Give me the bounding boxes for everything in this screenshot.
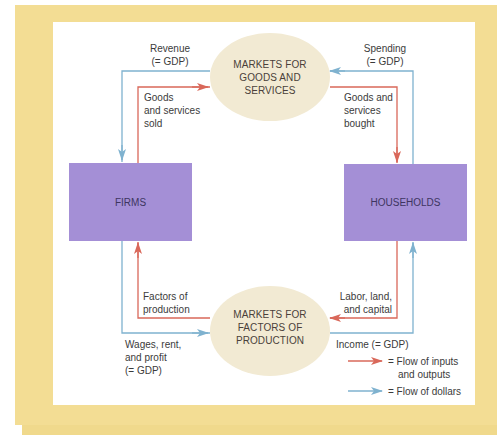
goods-market-line-2: GOODS AND	[210, 71, 330, 84]
wages-flow-line	[122, 241, 210, 333]
factor-market-label: MARKETS FOR FACTORS OF PRODUCTION	[210, 308, 330, 347]
income-text: Income (= GDP)	[336, 339, 409, 350]
legend-dollars-label: = Flow of dollars	[388, 385, 461, 398]
factors-of-production-label: Factors of production	[143, 290, 190, 316]
factors-line-1: Factors of	[143, 290, 190, 303]
factor-market-line-3: PRODUCTION	[210, 334, 330, 347]
goods-bought-line-1: Goods and	[344, 91, 393, 104]
factors-line-2: production	[143, 303, 190, 316]
goods-market-label: MARKETS FOR GOODS AND SERVICES	[210, 58, 330, 97]
labor-line-1: Labor, land,	[330, 290, 392, 303]
goods-sold-line-3: sold	[144, 117, 200, 130]
spending-label: Spending (= GDP)	[355, 42, 415, 68]
goods-sold-label: Goods and services sold	[144, 91, 200, 130]
legend-inputs-line-2: and outputs	[388, 368, 458, 381]
households-box: HOUSEHOLDS	[344, 164, 467, 241]
spending-label-line-1: Spending	[355, 42, 415, 55]
factor-market-line-2: FACTORS OF	[210, 321, 330, 334]
wages-label: Wages, rent, and profit (= GDP)	[125, 338, 181, 377]
firms-label: FIRMS	[115, 197, 146, 208]
labor-land-capital-label: Labor, land, and capital	[330, 290, 392, 316]
income-label: Income (= GDP)	[336, 338, 409, 351]
wages-line-1: Wages, rent,	[125, 338, 181, 351]
goods-bought-label: Goods and services bought	[344, 91, 393, 130]
goods-sold-line-2: and services	[144, 104, 200, 117]
legend-inputs-outputs-label: = Flow of inputs and outputs	[388, 355, 458, 381]
factor-market-line-1: MARKETS FOR	[210, 308, 330, 321]
households-label: HOUSEHOLDS	[370, 197, 440, 208]
revenue-label-line-1: Revenue	[145, 42, 195, 55]
legend-inputs-line-1: = Flow of inputs	[388, 355, 458, 368]
revenue-label: Revenue (= GDP)	[145, 42, 195, 68]
firms-box: FIRMS	[69, 163, 192, 241]
legend-dollars-text: = Flow of dollars	[388, 386, 461, 397]
labor-line-2: and capital	[330, 303, 392, 316]
revenue-label-line-2: (= GDP)	[145, 55, 195, 68]
income-flow-line	[330, 242, 413, 333]
goods-sold-line-1: Goods	[144, 91, 200, 104]
goods-market-line-3: SERVICES	[210, 84, 330, 97]
goods-market-line-1: MARKETS FOR	[210, 58, 330, 71]
goods-bought-line-2: services	[344, 104, 393, 117]
goods-bought-line-3: bought	[344, 117, 393, 130]
wages-line-3: (= GDP)	[125, 364, 181, 377]
wages-line-2: and profit	[125, 351, 181, 364]
spending-label-line-2: (= GDP)	[355, 55, 415, 68]
